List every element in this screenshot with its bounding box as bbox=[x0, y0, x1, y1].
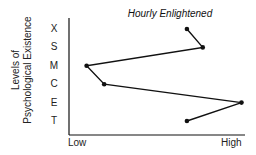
plot-area bbox=[0, 0, 256, 155]
series-line bbox=[87, 29, 242, 121]
data-point-c bbox=[102, 82, 107, 87]
data-point-t bbox=[185, 119, 190, 124]
data-point-m bbox=[84, 64, 89, 69]
chart: Hourly Enlightened Levels of Psychologic… bbox=[0, 0, 256, 155]
data-point-x bbox=[185, 27, 190, 32]
data-point-e bbox=[239, 100, 244, 105]
data-point-s bbox=[200, 45, 205, 50]
series-points bbox=[84, 27, 243, 124]
